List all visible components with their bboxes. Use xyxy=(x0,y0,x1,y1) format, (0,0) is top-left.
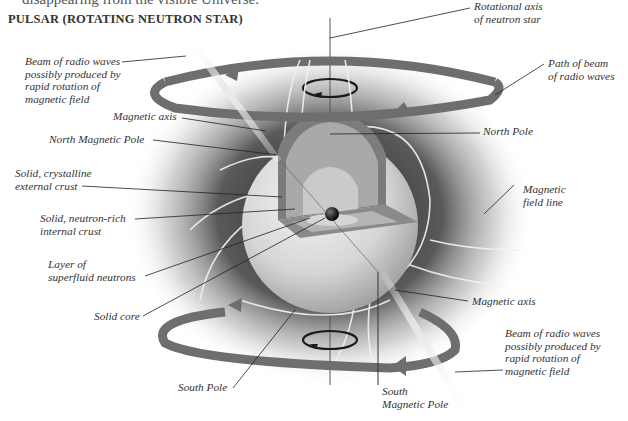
label-internal-crust: Solid, neutron-rich internal crust xyxy=(40,212,126,237)
label-magnetic-field-line: Magnetic field line xyxy=(523,183,566,208)
label-path-of-beam: Path of beam of radio waves xyxy=(548,57,615,82)
label-beam-bottom: Beam of radio waves possibly produced by… xyxy=(505,327,601,377)
label-superfluid-layer: Layer of superfluid neutrons xyxy=(48,258,136,283)
label-south-pole: South Pole xyxy=(178,381,227,394)
label-beam-top: Beam of radio waves possibly produced by… xyxy=(25,55,121,105)
label-solid-core: Solid core xyxy=(94,310,140,323)
label-external-crust: Solid, crystalline external crust xyxy=(15,167,92,192)
label-rotational-axis: Rotational axis of neutron star xyxy=(474,0,543,25)
label-south-magnetic-pole: South Magnetic Pole xyxy=(382,385,448,410)
label-magnetic-axis-top: Magnetic axis xyxy=(113,110,177,123)
label-north-magnetic-pole: North Magnetic Pole xyxy=(49,133,144,146)
label-magnetic-axis-bottom: Magnetic axis xyxy=(472,295,536,308)
label-north-pole: North Pole xyxy=(483,125,533,138)
